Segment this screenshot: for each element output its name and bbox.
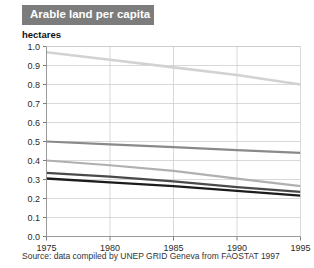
y-axis-tick-label: 1.0 bbox=[27, 42, 40, 52]
line-chart: 0.00.10.20.30.40.50.60.70.80.91.0 197519… bbox=[0, 0, 314, 268]
y-axis-tick-label: 0.1 bbox=[27, 213, 40, 223]
source-note: Source: data compiled by UNEP GRID Genev… bbox=[22, 252, 280, 261]
y-axis-tick-label: 0.0 bbox=[27, 232, 40, 242]
x-axis-tick-label: 1995 bbox=[290, 243, 310, 253]
plot-area: 0.00.10.20.30.40.50.60.70.80.91.0 197519… bbox=[0, 0, 314, 268]
figure-container: Arable land per capita hectares 0.00.10.… bbox=[0, 0, 314, 268]
y-axis-tick-label: 0.9 bbox=[27, 61, 40, 71]
y-axis-tick-label: 0.7 bbox=[27, 99, 40, 109]
y-axis-tick-label: 0.6 bbox=[27, 118, 40, 128]
y-axis-tick-label: 0.3 bbox=[27, 175, 40, 185]
y-axis-tick-label: 0.2 bbox=[27, 194, 40, 204]
y-axis-labels-group: 0.00.10.20.30.40.50.60.70.80.91.0 bbox=[27, 42, 40, 242]
y-axis-tick-label: 0.5 bbox=[27, 137, 40, 147]
y-axis-tick-label: 0.4 bbox=[27, 156, 40, 166]
y-axis-tick-label: 0.8 bbox=[27, 80, 40, 90]
x-axis-ticks-group bbox=[47, 237, 301, 241]
gridlines-group bbox=[43, 47, 301, 237]
